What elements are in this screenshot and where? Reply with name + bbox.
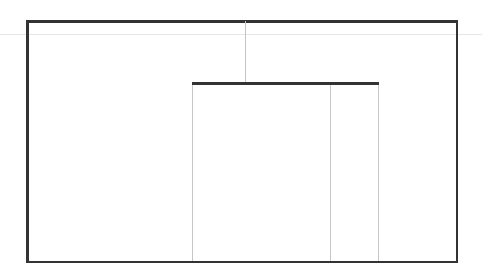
outer-rectangle-right-edge (456, 20, 459, 263)
post-left (192, 85, 193, 261)
post-mid (330, 85, 331, 261)
vertical-drop-line (245, 21, 246, 83)
horizontal-guide-line (0, 34, 482, 35)
drawing-canvas (0, 0, 482, 280)
outer-rectangle-top-edge (26, 20, 458, 23)
post-right (378, 85, 379, 261)
outer-rectangle-bottom-edge (26, 261, 458, 264)
inner-horizontal-bar (192, 82, 379, 85)
outer-rectangle-left-edge (26, 20, 29, 263)
